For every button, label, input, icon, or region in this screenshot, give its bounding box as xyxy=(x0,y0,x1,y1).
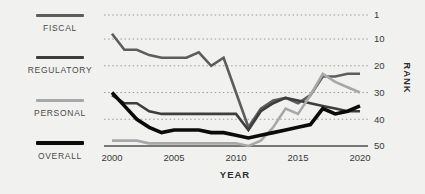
x-tick-label-2000: 2000 xyxy=(101,152,122,163)
y-tick-label-20: 20 xyxy=(374,60,385,71)
x-tick-label-2010: 2010 xyxy=(225,152,246,163)
x-tick-label-2005: 2005 xyxy=(163,152,184,163)
x-axis-title: YEAR xyxy=(220,169,250,180)
y-axis-title: RANK xyxy=(402,62,413,93)
x-tick-label-2015: 2015 xyxy=(287,152,308,163)
y-tick-label-40: 40 xyxy=(374,114,385,125)
series-line-regulatory xyxy=(112,95,360,130)
x-tick-label-2020: 2020 xyxy=(349,152,370,163)
y-tick-label-50: 50 xyxy=(374,140,385,151)
y-tick-label-1: 1 xyxy=(374,9,379,20)
rank-history-chart: FISCAL REGULATORY PERSONAL OVERALL 11020… xyxy=(0,0,425,194)
y-tick-label-30: 30 xyxy=(374,87,385,98)
y-tick-label-10: 10 xyxy=(374,33,385,44)
line-plot: 1102030405020002005201020152020YEARRANK xyxy=(0,0,425,194)
